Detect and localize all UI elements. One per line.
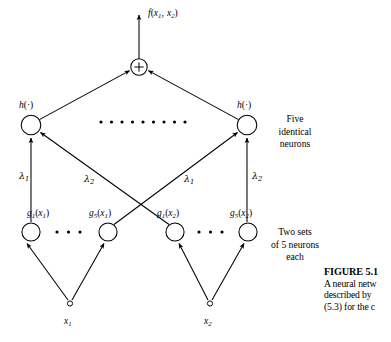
input-label-x2: x2 bbox=[203, 316, 212, 327]
edge-x2-to-g5x2 bbox=[212, 244, 244, 301]
hidden-layer-annotation-line-1: Five bbox=[265, 113, 325, 126]
basis-layer-ellipsis-right bbox=[197, 230, 223, 233]
basis-layer-ellipsis-left bbox=[55, 230, 81, 233]
basis-layer-annotation-line-2: of 5 neurons bbox=[256, 239, 334, 252]
figure-caption-line-3: (5.3) for the c bbox=[324, 301, 391, 313]
edge-x1-to-g1x1 bbox=[27, 244, 68, 301]
basis-neuron-g5x1-label: g5(x1) bbox=[89, 208, 111, 219]
basis-neuron-g1x1 bbox=[22, 223, 40, 241]
hidden-layer-ellipsis bbox=[99, 120, 186, 123]
hidden-neuron-right bbox=[237, 115, 257, 135]
input-node-x1 bbox=[67, 301, 72, 306]
weight-label-lambda1-right: λ1 bbox=[183, 173, 194, 186]
weight-label-lambda1-left: λ1 bbox=[18, 170, 29, 183]
figure-caption: FIGURE 5.1 A neural netw described by (5… bbox=[324, 266, 391, 312]
edge-x1-to-g5x1 bbox=[72, 244, 104, 301]
hidden-neuron-right-label: h(·) bbox=[237, 100, 251, 111]
basis-neuron-g5x1 bbox=[99, 223, 117, 241]
edge-hidden-left-to-sum bbox=[39, 71, 129, 120]
figure-caption-line-1: A neural netw bbox=[324, 278, 391, 290]
hidden-neuron-left-label: h(·) bbox=[19, 100, 33, 111]
basis-neuron-g5x2 bbox=[239, 223, 257, 241]
figure-container: f(x1, x2) h(·) h(·) bbox=[0, 0, 391, 342]
output-label: f(x1, x2) bbox=[148, 8, 178, 19]
basis-layer-annotation-line-3: each bbox=[256, 251, 334, 264]
hidden-layer-annotation: Five identical neurons bbox=[265, 113, 325, 151]
figure-caption-title: FIGURE 5.1 bbox=[324, 266, 391, 278]
basis-neuron-g1x1-label: g1(x1) bbox=[27, 208, 49, 219]
input-node-x2 bbox=[207, 301, 212, 306]
edge-g1x2-to-hidden-left bbox=[41, 133, 170, 225]
basis-neuron-g1x2 bbox=[166, 223, 184, 241]
weight-label-lambda2-left: λ2 bbox=[83, 173, 94, 186]
hidden-neuron-left bbox=[21, 115, 41, 135]
edge-x2-to-g1x2 bbox=[179, 244, 208, 301]
hidden-layer-annotation-line-3: neurons bbox=[265, 138, 325, 151]
basis-neuron-g5x2-label: g5(x2) bbox=[230, 208, 252, 219]
hidden-layer-annotation-line-2: identical bbox=[265, 126, 325, 139]
edge-hidden-right-to-sum bbox=[148, 71, 238, 120]
figure-caption-line-2: described by bbox=[324, 289, 391, 301]
basis-layer-annotation-line-1: Two sets bbox=[256, 226, 334, 239]
basis-layer-annotation: Two sets of 5 neurons each bbox=[256, 226, 334, 264]
weight-label-lambda2-right: λ2 bbox=[251, 170, 262, 183]
input-label-x1: x1 bbox=[63, 316, 72, 327]
summation-node bbox=[131, 59, 147, 75]
basis-neuron-g1x2-label: g1(x2) bbox=[157, 208, 179, 219]
